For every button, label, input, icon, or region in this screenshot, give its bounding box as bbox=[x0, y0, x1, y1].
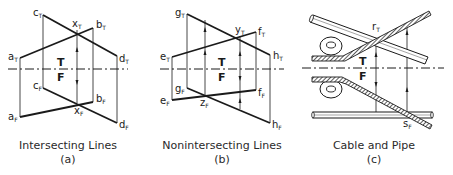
line-ab-top bbox=[20, 28, 93, 58]
arrow-up-icon bbox=[204, 27, 207, 32]
caption-c: Cable and Pipe bbox=[333, 139, 415, 152]
plane-label-front: F bbox=[57, 71, 65, 84]
label-xT: xT bbox=[72, 18, 82, 30]
arrow-up-icon bbox=[239, 98, 242, 103]
label-aT: aT bbox=[8, 51, 18, 63]
label-eT: eT bbox=[160, 51, 170, 63]
label-zF: zF bbox=[200, 97, 209, 109]
label-dF: dF bbox=[119, 119, 129, 131]
label-hF: hF bbox=[272, 119, 282, 131]
label-fF: fF bbox=[258, 87, 266, 99]
label-cF: cF bbox=[33, 80, 43, 92]
arrow-up-icon bbox=[406, 30, 409, 35]
arrow-up-icon bbox=[76, 47, 79, 52]
label-yT: yT bbox=[235, 24, 245, 36]
caption-a: Intersecting Lines bbox=[19, 139, 117, 152]
label-dT: dT bbox=[119, 53, 129, 65]
label-gT: gT bbox=[175, 7, 185, 19]
plane-label-top: T bbox=[218, 56, 226, 69]
label-fT: fT bbox=[258, 26, 266, 38]
label-cT: cT bbox=[33, 7, 43, 19]
plane-label-top: T bbox=[359, 55, 367, 68]
panel-nonintersecting-lines: T F gT yT fT eT hT gF fF eF zF hF Nonint… bbox=[160, 7, 284, 166]
line-cd-front bbox=[43, 88, 117, 123]
label-bT: bT bbox=[96, 19, 106, 31]
caption-letter-c: (c) bbox=[367, 153, 382, 166]
caption-letter-b: (b) bbox=[214, 153, 230, 166]
label-sF: sF bbox=[403, 118, 412, 130]
label-aF: aF bbox=[8, 111, 18, 123]
plane-label-top: T bbox=[57, 56, 65, 69]
arrow-down-icon bbox=[76, 80, 79, 85]
arrow-down-icon bbox=[375, 82, 378, 87]
arrow-up-icon bbox=[239, 51, 242, 56]
label-rT: rT bbox=[372, 21, 380, 33]
label-hT: hT bbox=[273, 50, 283, 62]
caption-letter-a: (a) bbox=[60, 153, 75, 166]
plane-label-front: F bbox=[359, 70, 367, 83]
caption-b: Nonintersecting Lines bbox=[162, 139, 282, 152]
cable-spool-front bbox=[320, 80, 342, 98]
arrow-up-icon bbox=[375, 52, 378, 57]
panel-cable-and-pipe: T F rT sF Cable and Pipe (c) bbox=[302, 11, 444, 166]
plane-label-front: F bbox=[218, 71, 226, 84]
arrow-down-icon bbox=[239, 76, 242, 81]
label-eF: eF bbox=[160, 95, 170, 107]
arrow-up-icon bbox=[406, 87, 409, 92]
cable-spool-top bbox=[320, 37, 342, 55]
label-gF: gF bbox=[175, 83, 185, 95]
orthographic-diagram: T F cT xT bT aT dT cF bF xF aF dF Inters… bbox=[0, 0, 453, 175]
arrow-up-icon bbox=[204, 50, 207, 55]
line-cd-top bbox=[43, 15, 117, 56]
label-bF: bF bbox=[96, 93, 106, 105]
panel-intersecting-lines: T F cT xT bT aT dT cF bF xF aF dF Inters… bbox=[8, 7, 129, 166]
